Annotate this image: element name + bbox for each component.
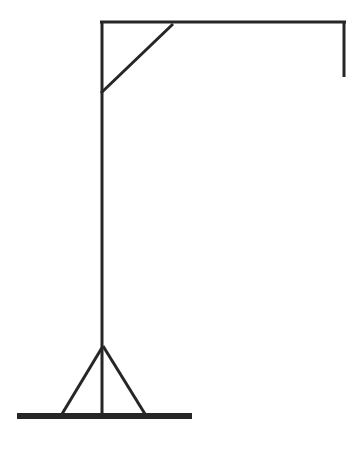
drawing-background [0, 0, 364, 457]
gallows-frame-drawing [0, 0, 364, 457]
figure-canvas [0, 0, 364, 457]
